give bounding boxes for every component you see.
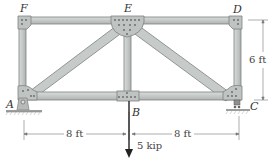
truss-diagram — [0, 0, 271, 158]
node-label-B: B — [132, 107, 140, 118]
node-label-F: F — [20, 3, 28, 14]
gusset-F — [18, 16, 31, 29]
node-label-C: C — [250, 101, 258, 112]
load-label: 5 kip — [137, 141, 162, 151]
roller-support-C — [226, 100, 250, 114]
dim-label-left-span: 8 ft — [66, 129, 83, 139]
gusset-C — [223, 85, 242, 100]
dim-label-right-span: 8 ft — [174, 129, 191, 139]
member-EC — [124, 20, 233, 101]
dim-label-height: 6 ft — [249, 55, 266, 65]
node-label-A: A — [6, 99, 14, 110]
node-label-E: E — [124, 3, 132, 14]
gusset-D — [229, 16, 242, 29]
node-label-D: D — [233, 4, 242, 15]
gusset-B — [117, 91, 139, 101]
